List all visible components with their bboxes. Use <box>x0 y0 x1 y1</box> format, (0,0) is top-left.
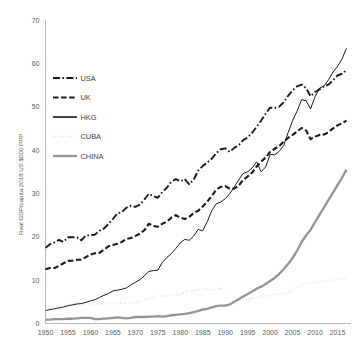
x-tick-label: 2000 <box>262 329 278 336</box>
x-tick-label: 2005 <box>285 329 301 336</box>
y-tick-label: 70 <box>32 17 40 24</box>
data-series-group <box>46 48 347 319</box>
line-chart: Real GDP/capita 2018 US $000 PPP 0102030… <box>0 0 356 357</box>
legend-label-uk: UK <box>81 93 91 102</box>
x-tick-labels: 1950195519601965197019751980198519901995… <box>38 329 346 336</box>
series-line-china <box>46 170 347 320</box>
legend-label-cuba: CUBA <box>81 132 102 141</box>
series-line-uk <box>46 121 347 270</box>
y-tick-label: 60 <box>32 60 40 67</box>
x-tick-label: 1950 <box>38 329 54 336</box>
x-tick-label: 1965 <box>105 329 121 336</box>
chart-legend: USAUKHKGCUBACHINA <box>53 74 104 161</box>
x-tick-label: 1955 <box>60 329 76 336</box>
y-tick-label: 30 <box>32 190 40 197</box>
y-axis-title-text: Real GDP/capita 2018 US $000 PPP <box>17 134 24 235</box>
x-tick-label: 2010 <box>307 329 323 336</box>
x-tick-label: 1970 <box>128 329 144 336</box>
y-tick-label: 20 <box>32 233 40 240</box>
x-tick-label: 1980 <box>172 329 188 336</box>
legend-label-hkg: HKG <box>81 113 97 122</box>
x-tick-label: 1960 <box>83 329 99 336</box>
x-tick-label: 1995 <box>240 329 256 336</box>
x-tick-label: 1985 <box>195 329 211 336</box>
x-tick-label: 2015 <box>330 329 346 336</box>
x-tick-label: 1975 <box>150 329 166 336</box>
y-tick-labels: 010203040506070 <box>32 17 40 328</box>
series-line-hkg <box>46 48 347 310</box>
series-line-cuba <box>46 278 347 306</box>
y-axis-title: Real GDP/capita 2018 US $000 PPP <box>17 134 24 235</box>
legend-label-china: CHINA <box>81 152 104 161</box>
y-tick-label: 50 <box>32 103 40 110</box>
chart-figure: Real GDP/capita 2018 US $000 PPP 0102030… <box>0 0 356 357</box>
y-tick-label: 0 <box>36 320 40 327</box>
y-tick-label: 40 <box>32 147 40 154</box>
y-tick-label: 10 <box>32 277 40 284</box>
x-tick-label: 1990 <box>217 329 233 336</box>
legend-label-usa: USA <box>81 74 96 83</box>
